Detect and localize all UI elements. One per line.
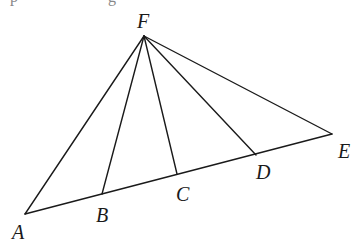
point-label-D: D — [256, 162, 270, 182]
segment-FE — [144, 36, 332, 134]
point-label-F: F — [137, 11, 149, 31]
geometry-diagram — [0, 0, 361, 249]
point-label-E: E — [338, 141, 350, 161]
segment-FC — [144, 36, 177, 174]
segment-FB — [102, 36, 144, 194]
point-label-B: B — [96, 205, 108, 225]
point-label-C: C — [176, 184, 189, 204]
clipped-text-fragment: g — [108, 0, 116, 5]
clipped-text-fragment: p — [10, 0, 18, 5]
point-label-A: A — [12, 222, 24, 242]
segment-FD — [144, 36, 256, 155]
